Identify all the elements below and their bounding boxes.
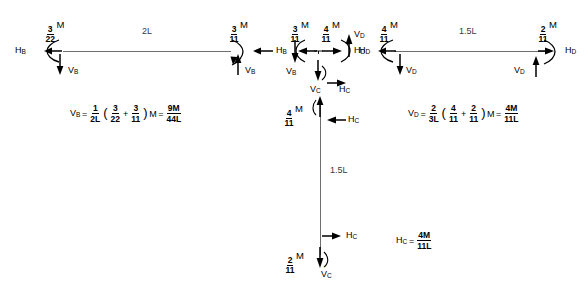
axial-arrow-HC-column-top [325, 115, 347, 125]
force-label-HC-joint: HC [339, 85, 350, 95]
force-label-HD-right-end: HD [565, 46, 576, 56]
reaction-arrow-VB-joint [289, 40, 301, 64]
force-label-VD-joint: VD [354, 30, 365, 40]
force-label-VB-joint: VB [286, 67, 297, 77]
equation-HC: HC = 4M11L [396, 231, 433, 250]
force-label-HC-column-top: HC [348, 115, 359, 125]
reaction-arrow-VB-right [232, 54, 244, 76]
force-label-HB-joint: HB [276, 46, 287, 56]
left-beam-line [63, 51, 231, 52]
force-label-VD-right: VD [514, 66, 525, 76]
axial-arrow-HC-column-bottom [322, 231, 344, 241]
column-line [320, 100, 321, 255]
fraction-2-11-b: 2 11 [285, 256, 296, 275]
reaction-arrow-VD-left [394, 54, 406, 76]
right-beam-line [394, 51, 552, 52]
force-label-HD-right-beam: HD [359, 46, 370, 56]
force-label-VD-left: VD [406, 66, 417, 76]
moment-label-column-top: 4 11 M [283, 98, 303, 128]
span-label-left-beam: 2L [142, 26, 152, 36]
reaction-arrow-VC-column-bottom [314, 247, 334, 271]
force-label-HC-column-bottom: HC [346, 231, 357, 241]
force-label-VB-right: VB [245, 66, 256, 76]
fraction-4-11-c: 4 11 [284, 109, 295, 128]
force-label-VB-left: VB [68, 66, 79, 76]
force-label-HB-left: HB [15, 46, 26, 56]
span-label-column: 1.5L [330, 165, 348, 175]
axial-arrow-left-beam-right-end [250, 45, 274, 57]
force-label-VC-column-bottom: VC [321, 270, 332, 280]
force-label-VC-joint: VC [310, 85, 321, 95]
span-label-right-beam: 1.5L [459, 26, 477, 36]
equation-VB: VB = 12L ( 322 + 311 ) M = 9M44L [70, 104, 183, 123]
fraction-4-11-a: 4 11 [321, 25, 332, 44]
equation-VD: VD = 23L ( 411 + 211 ) M = 4M11L [408, 104, 520, 123]
reaction-arrow-VD-right [530, 56, 542, 78]
free-body-diagram: 3 22 M HB VB 2L 3 11 M [0, 0, 588, 284]
moment-label-column-bottom: 2 11 M [284, 245, 304, 275]
reaction-arrow-VB-left [54, 54, 66, 76]
